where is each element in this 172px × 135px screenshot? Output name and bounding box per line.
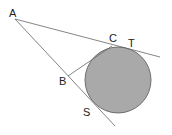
tangent-circle-diagram: A C T B S [0, 0, 172, 135]
label-s: S [83, 106, 90, 118]
tangent-line-at [15, 19, 160, 57]
shaded-circle [85, 47, 151, 113]
label-c: C [109, 32, 117, 44]
label-t: T [128, 37, 135, 49]
label-b: B [59, 75, 66, 87]
label-a: A [9, 7, 17, 19]
